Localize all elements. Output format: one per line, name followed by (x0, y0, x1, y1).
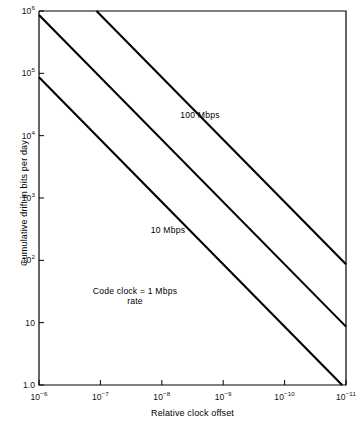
series-label-100mbps-text: 100 Mbps (180, 110, 219, 120)
axis-frame (39, 11, 346, 385)
x-tick-label: 10−10 (274, 392, 294, 402)
x-axis-title: Relative clock offset (39, 408, 346, 418)
x-tick-label: 10−6 (31, 392, 48, 402)
data-line-10-mbps (39, 15, 346, 327)
y-tick-label: 104 (0, 131, 35, 141)
series-label-100mbps: 100 Mbps (180, 110, 219, 120)
tick-marks (39, 11, 346, 385)
chart-plot-area (0, 0, 363, 427)
series-label-1mbps-text-line2: rate (93, 296, 177, 306)
x-tick-label: 10−11 (336, 392, 356, 402)
x-tick-label: 10−7 (92, 392, 109, 402)
y-tick-label: 10 (0, 318, 35, 328)
data-line-100-mbps (97, 11, 346, 264)
y-tick-label: 103 (0, 193, 35, 203)
y-tick-label: 105 (0, 68, 35, 78)
series-label-10mbps-text: 10 Mbps (151, 225, 185, 235)
plot-border (39, 11, 346, 385)
y-tick-label: 102 (0, 255, 35, 265)
data-series-lines (39, 11, 346, 385)
series-label-10mbps: 10 Mbps (151, 225, 185, 235)
x-tick-label: 10−9 (215, 392, 232, 402)
series-label-1mbps: Code clock = 1 Mbps rate (93, 286, 177, 306)
chart-figure: 106105104103102101.0 10−610−710−810−910−… (0, 0, 363, 427)
data-line-1-mbps (39, 77, 342, 385)
series-label-1mbps-text: Code clock = 1 Mbps (93, 286, 177, 296)
y-axis-title: Cumulative drift in bits per day (19, 103, 29, 303)
y-tick-label: 1.0 (0, 380, 35, 390)
y-tick-label: 106 (0, 6, 35, 16)
x-tick-label: 10−8 (153, 392, 170, 402)
